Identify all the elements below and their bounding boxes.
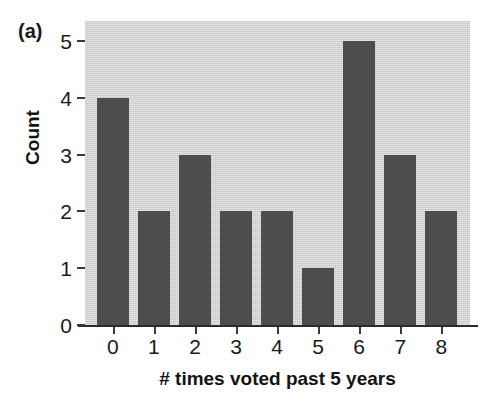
x-axis-tick-label: 8 [421, 336, 461, 357]
x-axis-tick [195, 327, 197, 334]
y-axis-tick [77, 210, 85, 212]
bar-chart-figure: (a) 012345 012345678 # times voted past … [0, 0, 495, 407]
x-axis-tick [359, 327, 361, 334]
x-axis-tick-label: 6 [339, 336, 379, 357]
y-axis-tick-label: 5 [40, 30, 72, 51]
x-axis-tick [236, 327, 238, 334]
bar [384, 155, 416, 325]
x-axis-tick [113, 327, 115, 334]
bar [220, 211, 252, 325]
bar [97, 98, 129, 325]
x-axis-tick [400, 327, 402, 334]
y-axis-tick [77, 40, 85, 42]
y-axis-tick-label: 3 [40, 144, 72, 165]
bar [179, 155, 211, 325]
bar [261, 211, 293, 325]
y-axis-title: Count [23, 78, 42, 198]
bar [138, 211, 170, 325]
y-axis-tick [77, 97, 85, 99]
x-axis-tick-label: 7 [380, 336, 420, 357]
y-axis-tick [77, 154, 85, 156]
y-axis-tick [77, 267, 85, 269]
x-axis-tick-label: 2 [175, 336, 215, 357]
x-axis-title: # times voted past 5 years [85, 369, 470, 388]
y-axis-tick-label: 4 [40, 87, 72, 108]
panel-label: (a) [18, 21, 42, 41]
bar [343, 41, 375, 325]
y-axis-tick [77, 324, 85, 326]
y-axis-tick-label: 2 [40, 201, 72, 222]
bar [425, 211, 457, 325]
x-axis-tick [441, 327, 443, 334]
x-axis-tick-label: 4 [257, 336, 297, 357]
x-axis-tick-label: 1 [134, 336, 174, 357]
x-axis-tick [154, 327, 156, 334]
x-axis-tick-label: 5 [298, 336, 338, 357]
x-axis-tick-label: 3 [216, 336, 256, 357]
x-axis-tick [277, 327, 279, 334]
x-axis-tick [318, 327, 320, 334]
y-axis-tick-label: 0 [40, 315, 72, 336]
bar [302, 268, 334, 325]
y-axis-tick-label: 1 [40, 258, 72, 279]
plot-area [85, 21, 470, 325]
x-axis-tick-label: 0 [93, 336, 133, 357]
